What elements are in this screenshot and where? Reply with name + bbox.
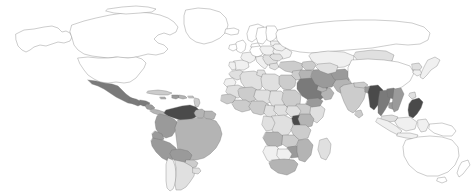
world-map-svg (0, 0, 471, 196)
world-choropleth-map-figure (0, 0, 471, 196)
country-puerto-rico[interactable] (188, 96, 194, 98)
country-jamaica[interactable] (160, 97, 166, 99)
